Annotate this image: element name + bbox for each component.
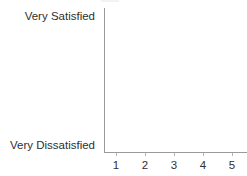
x-axis-tick-mark bbox=[232, 153, 233, 156]
x-axis-tick-mark bbox=[174, 153, 175, 156]
y-axis-label-very-dissatisfied: Very Dissatisfied bbox=[0, 139, 95, 152]
x-axis-tick-mark bbox=[203, 153, 204, 156]
x-axis-tick-label: 2 bbox=[135, 159, 155, 172]
clipped-edge-artifact bbox=[101, 0, 119, 2]
x-axis-tick-label: 4 bbox=[193, 159, 213, 172]
chart-figure: Very Satisfied Very Dissatisfied 12345 bbox=[0, 0, 247, 176]
x-axis-tick-mark bbox=[116, 153, 117, 156]
x-axis-line bbox=[104, 152, 247, 153]
x-axis-tick-mark bbox=[145, 153, 146, 156]
y-axis-label-very-satisfied: Very Satisfied bbox=[0, 10, 95, 23]
x-axis-tick-label: 5 bbox=[222, 159, 242, 172]
plot-area bbox=[105, 8, 247, 152]
x-axis-tick-label: 3 bbox=[164, 159, 184, 172]
x-axis-tick-label: 1 bbox=[106, 159, 126, 172]
